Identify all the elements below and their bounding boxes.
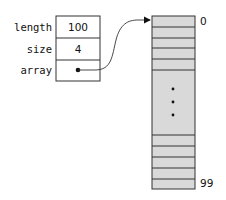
field-label-array: array: [20, 64, 52, 76]
index-label-first: 0: [200, 15, 207, 27]
field-value-size: 4: [75, 43, 82, 55]
field-label-length: length: [14, 21, 52, 33]
index-label-last: 99: [200, 177, 213, 189]
field-label-size: size: [27, 43, 52, 55]
array-list-diagram: length size array 100 4 0 99: [0, 0, 226, 200]
field-value-length: 100: [68, 21, 88, 33]
